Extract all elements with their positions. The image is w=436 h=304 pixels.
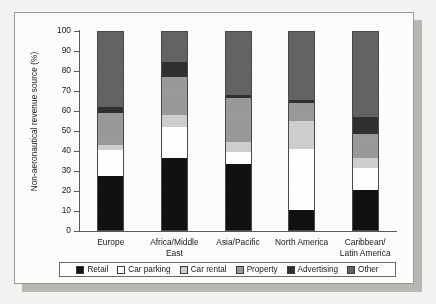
x-axis-label-line: Europe — [79, 237, 143, 248]
y-tick-label: 60 — [31, 106, 71, 114]
legend-swatch-advertising — [287, 266, 295, 274]
chart-legend: RetailCar parkingCar rentalPropertyAdver… — [59, 262, 396, 277]
bar-segment-retail — [288, 210, 315, 231]
stacked-bar — [161, 31, 188, 231]
legend-swatch-car-rental — [180, 266, 188, 274]
stacked-bar — [352, 31, 379, 231]
bar-segment-property — [288, 103, 315, 121]
bar-segment-retail — [352, 190, 379, 231]
bar-segment-car-parking — [161, 127, 188, 158]
y-tick-label: 90 — [31, 46, 71, 54]
x-axis-label: Africa/Middle East — [143, 237, 207, 258]
y-tick-label: 40 — [31, 146, 71, 154]
y-tick-label-holder: 20 — [25, 186, 71, 196]
legend-item: Car parking — [117, 265, 170, 274]
y-tick-label-holder: 40 — [25, 146, 71, 156]
bar-segment-car-rental — [161, 115, 188, 127]
y-tick-label-holder: 50 — [25, 126, 71, 136]
legend-label: Car parking — [128, 265, 170, 274]
y-tick-label: 80 — [31, 66, 71, 74]
bar-segment-property — [97, 113, 124, 145]
legend-label: Retail — [87, 265, 108, 274]
legend-item: Retail — [76, 265, 108, 274]
x-axis-label-line: Africa/Middle East — [143, 237, 207, 258]
stacked-bar — [97, 31, 124, 231]
y-tick-label: 100 — [31, 26, 71, 34]
bar-segment-car-parking — [352, 168, 379, 190]
x-axis-label-line: Asia/Pacific — [206, 237, 270, 248]
bar-segment-retail — [97, 176, 124, 231]
y-tick-label: 30 — [31, 166, 71, 174]
stacked-bar — [288, 31, 315, 231]
y-tick-label: 0 — [31, 226, 71, 234]
y-axis-title: Non-aeronautical revenue source (%) — [30, 37, 39, 207]
chart-screenshot: Non-aeronautical revenue source (%) 1009… — [0, 0, 436, 304]
legend-label: Car rental — [191, 265, 227, 274]
x-axis-label: North America — [270, 237, 334, 248]
legend-item: Other — [347, 265, 378, 274]
figure-card: Non-aeronautical revenue source (%) 1009… — [14, 12, 414, 284]
x-axis-label: Europe — [79, 237, 143, 248]
plot-area: Non-aeronautical revenue source (%) 1009… — [15, 13, 415, 285]
y-tick-label-holder: 90 — [25, 46, 71, 56]
bar-segment-other — [352, 31, 379, 117]
legend-swatch-other — [347, 266, 355, 274]
bar-segment-other — [161, 31, 188, 62]
bar-segment-property — [225, 98, 252, 142]
y-tick-label: 70 — [31, 86, 71, 94]
y-tick-label-holder: 60 — [25, 106, 71, 116]
bar-segment-retail — [161, 158, 188, 231]
legend-swatch-car-parking — [117, 266, 125, 274]
bar-segment-property — [352, 134, 379, 158]
y-tick-label-holder: 0 — [25, 226, 71, 236]
bar-segment-car-parking — [97, 150, 124, 176]
stacked-bar — [225, 31, 252, 231]
legend-swatch-retail — [76, 266, 84, 274]
x-axis-label: Caribbean/Latin America — [333, 237, 397, 258]
legend-label: Advertising — [298, 265, 339, 274]
y-tick-label: 20 — [31, 186, 71, 194]
bar-segment-car-rental — [288, 121, 315, 149]
bar-segment-other — [97, 31, 124, 107]
legend-item: Advertising — [287, 265, 339, 274]
bar-segment-car-parking — [288, 149, 315, 210]
y-tick-label-holder: 100 — [25, 26, 71, 36]
bar-segment-advertising — [161, 62, 188, 77]
bar-segment-advertising — [352, 117, 379, 134]
legend-swatch-property — [236, 266, 244, 274]
x-axis-label: Asia/Pacific — [206, 237, 270, 248]
x-axis-label-line: North America — [270, 237, 334, 248]
legend-label: Property — [247, 265, 278, 274]
bar-segment-car-rental — [225, 142, 252, 152]
y-tick-label-holder: 80 — [25, 66, 71, 76]
bar-segment-other — [225, 31, 252, 95]
legend-label: Other — [358, 265, 378, 274]
y-tick-label-holder: 70 — [25, 86, 71, 96]
x-axis-line — [79, 231, 397, 232]
x-axis-label-line: Latin America — [333, 248, 397, 259]
y-tick-label-holder: 10 — [25, 206, 71, 216]
y-tick-label: 10 — [31, 206, 71, 214]
bar-segment-retail — [225, 164, 252, 231]
bar-segment-car-parking — [225, 152, 252, 164]
y-tick-label: 50 — [31, 126, 71, 134]
legend-item: Property — [236, 265, 278, 274]
bar-segment-property — [161, 77, 188, 115]
x-axis-label-line: Caribbean/ — [333, 237, 397, 248]
y-tick-label-holder: 30 — [25, 166, 71, 176]
legend-item: Car rental — [180, 265, 227, 274]
bars-layer — [79, 31, 397, 231]
bar-segment-car-rental — [352, 158, 379, 168]
bar-segment-other — [288, 31, 315, 100]
